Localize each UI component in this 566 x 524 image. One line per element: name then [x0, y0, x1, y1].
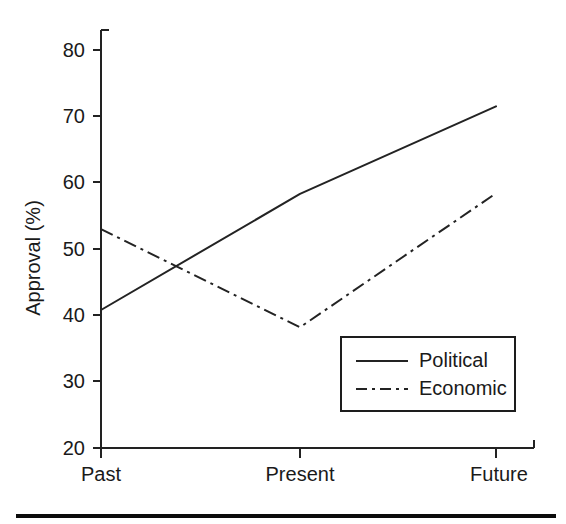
legend-box: [341, 337, 515, 411]
y-tick-label-40: 40: [63, 304, 85, 326]
chart-figure: 20 30 40 50 60 70 80 Past Present Future…: [0, 0, 566, 524]
approval-line-chart: 20 30 40 50 60 70 80 Past Present Future…: [0, 0, 566, 524]
y-tick-label-50: 50: [63, 238, 85, 260]
x-tick-label-future: Future: [470, 463, 528, 485]
y-tick-label-70: 70: [63, 105, 85, 127]
chart-legend: Political Economic: [341, 337, 515, 411]
legend-label-political: Political: [419, 349, 488, 371]
y-tick-label-60: 60: [63, 171, 85, 193]
y-tick-label-30: 30: [63, 370, 85, 392]
x-tick-label-present: Present: [266, 463, 335, 485]
x-tick-label-past: Past: [81, 463, 121, 485]
y-tick-label-80: 80: [63, 39, 85, 61]
y-tick-label-20: 20: [63, 437, 85, 459]
legend-label-economic: Economic: [419, 377, 507, 399]
y-axis-title: Approval (%): [22, 200, 44, 316]
